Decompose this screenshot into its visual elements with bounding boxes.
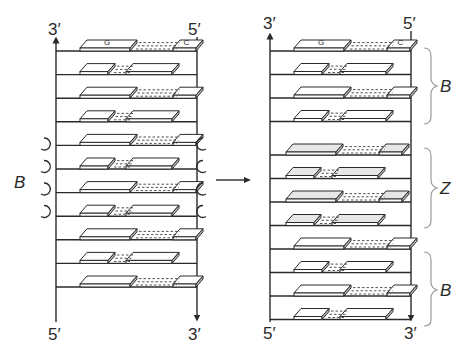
base-left xyxy=(294,262,329,273)
base-left xyxy=(80,111,115,122)
base-left xyxy=(80,158,115,169)
base-label-g: G xyxy=(104,38,110,47)
base-left xyxy=(80,87,137,98)
base-left xyxy=(80,229,137,240)
brace-b-top xyxy=(424,48,437,124)
left-helix-top-right-label: 5′ xyxy=(188,20,201,39)
left-helix-bottom-left-label: 5′ xyxy=(48,325,61,344)
brace-b-bottom xyxy=(424,252,437,326)
base-label-c: C xyxy=(398,38,404,47)
base-right xyxy=(379,144,409,155)
rotation-arrows xyxy=(41,138,206,218)
base-left xyxy=(294,285,351,296)
right-helix-top-left-label: 3′ xyxy=(263,14,276,33)
base-right xyxy=(340,309,393,320)
right-helix-bottom-right-label: 3′ xyxy=(404,324,417,343)
left-base-pair-rows: GC xyxy=(56,38,203,287)
left-helix-form-label: B xyxy=(14,173,25,192)
base-left xyxy=(294,111,329,122)
base-right xyxy=(126,64,179,75)
base-left xyxy=(80,134,137,145)
base-left xyxy=(286,168,321,179)
segment-braces xyxy=(424,48,437,326)
segment-label-z: Z xyxy=(439,179,451,198)
base-right xyxy=(387,285,417,296)
base-label-c: C xyxy=(184,38,190,47)
base-right xyxy=(340,262,393,273)
base-left xyxy=(80,276,137,287)
segment-label-b-bottom: B xyxy=(440,281,451,300)
base-label-g: G xyxy=(318,38,324,47)
base-left xyxy=(80,64,115,75)
base-right xyxy=(332,215,385,226)
brace-z xyxy=(424,148,437,228)
base-left xyxy=(286,144,343,155)
base-right xyxy=(126,205,179,216)
base-right xyxy=(173,87,203,98)
base-right xyxy=(126,111,179,122)
base-right xyxy=(379,191,409,202)
base-right xyxy=(173,229,203,240)
left-helix-top-left-label: 3′ xyxy=(48,20,61,39)
base-right xyxy=(126,252,179,263)
base-left xyxy=(80,252,115,263)
base-left xyxy=(294,238,351,249)
right-helix-bottom-left-label: 5′ xyxy=(263,324,276,343)
base-left xyxy=(294,309,329,320)
transition-arrow xyxy=(216,177,251,183)
right-base-pair-rows: GC xyxy=(270,38,417,320)
base-left xyxy=(294,64,329,75)
base-left xyxy=(80,205,115,216)
base-left xyxy=(286,191,343,202)
base-left xyxy=(286,215,321,226)
base-right xyxy=(173,182,203,193)
base-left xyxy=(80,182,137,193)
left-helix-bottom-right-label: 3′ xyxy=(188,325,201,344)
base-right xyxy=(126,158,179,169)
segment-label-b-top: B xyxy=(440,77,451,96)
base-right xyxy=(340,111,393,122)
base-right xyxy=(332,168,385,179)
base-right xyxy=(387,87,417,98)
dna-b-to-z-diagram: GC 3′ 5′ 5′ 3′ B GC B Z B 3′ 5′ 5′ 3′ xyxy=(0,0,460,353)
right-helix-top-right-label: 5′ xyxy=(403,14,416,33)
base-right xyxy=(387,238,417,249)
base-right xyxy=(340,64,393,75)
base-right xyxy=(173,276,203,287)
base-left xyxy=(294,87,351,98)
